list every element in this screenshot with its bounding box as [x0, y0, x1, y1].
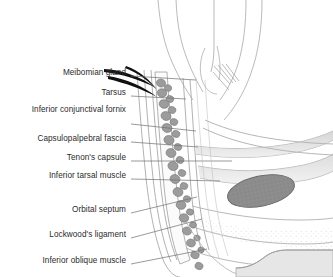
label-capsulopalpebral-fascia: Capsulopalpebral fascia: [37, 134, 126, 145]
label-inferior-conjunctival-fornix: Inferior conjunctival fornix: [8, 105, 126, 116]
label-tarsus: Tarsus: [102, 88, 126, 99]
fibrous-insertion-bundle: [213, 64, 239, 90]
caruncle: [200, 46, 220, 94]
label-inferior-oblique-muscle: Inferior oblique muscle: [42, 256, 126, 267]
label-tenons-capsule: Tenon's capsule: [67, 153, 126, 164]
label-meibomian-gland: Meibomian gland: [63, 68, 126, 79]
orbital-rim-bone: [236, 250, 333, 277]
label-orbital-septum: Orbital septum: [72, 205, 126, 216]
eyelid-anatomy-figure: Meibomian gland Tarsus Inferior conjunct…: [0, 0, 333, 277]
label-inferior-tarsal-muscle: Inferior tarsal muscle: [49, 171, 126, 182]
conjunctival-fornix-group: [158, 0, 262, 120]
label-lockwoods-ligament: Lockwood's ligament: [49, 230, 126, 241]
